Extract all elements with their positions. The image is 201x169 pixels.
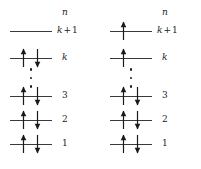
level-label-1: 1: [162, 139, 168, 148]
level-line: [110, 144, 152, 145]
level-line: [110, 120, 152, 121]
energy-level-figure: nk+1k321nk+1k321: [0, 0, 201, 169]
spin-arrow-up-icon: [20, 48, 27, 68]
level-label-number: 1: [62, 138, 68, 148]
ellipsis-dot: [130, 77, 133, 80]
spin-arrow-down-icon: [34, 86, 41, 106]
level-label-2: 2: [62, 115, 68, 124]
level-line: [110, 31, 152, 32]
level-label-number: 3: [62, 90, 68, 100]
quantum-number-header: n: [62, 8, 68, 17]
spin-arrow-down-icon: [134, 134, 141, 154]
level-label-number: 1: [172, 25, 178, 35]
level-label-k-plus-1: k+1: [57, 26, 78, 35]
spin-arrow-up-icon: [120, 110, 127, 130]
level-label-2: 2: [162, 115, 168, 124]
level-label-k-plus-1: k+1: [157, 26, 178, 35]
level-label-number: 2: [162, 114, 168, 124]
level-label-operator: +: [162, 25, 172, 35]
quantum-number-header: n: [162, 8, 168, 17]
level-line: [110, 96, 152, 97]
level-line: [10, 31, 52, 32]
spin-arrow-down-icon: [34, 48, 41, 68]
level-label-k: k: [62, 53, 67, 62]
level-line: [10, 58, 52, 59]
spin-arrow-down-icon: [134, 110, 141, 130]
level-label-1: 1: [62, 139, 68, 148]
level-label-operator: +: [62, 25, 72, 35]
spin-arrow-up-icon: [120, 48, 127, 68]
ellipsis-dot: [130, 85, 133, 88]
level-label-3: 3: [162, 91, 168, 100]
level-label-base: k: [162, 52, 167, 62]
ellipsis-dot: [30, 77, 33, 80]
ellipsis-dot: [30, 85, 33, 88]
level-label-number: 2: [62, 114, 68, 124]
level-line: [10, 120, 52, 121]
spin-arrow-up-icon: [120, 21, 127, 41]
vertical-ellipsis-icon: [26, 68, 36, 88]
spin-arrow-up-icon: [20, 86, 27, 106]
level-label-base: k: [62, 52, 67, 62]
level-line: [110, 58, 152, 59]
spin-arrow-down-icon: [34, 134, 41, 154]
level-line: [10, 96, 52, 97]
level-label-3: 3: [62, 91, 68, 100]
level-label-k: k: [162, 53, 167, 62]
spin-arrow-up-icon: [120, 86, 127, 106]
level-line: [10, 144, 52, 145]
energy-diagram-ground-state-configuration: nk+1k321: [0, 0, 100, 169]
level-label-number: 1: [72, 25, 78, 35]
ellipsis-dot: [130, 68, 133, 71]
spin-arrow-up-icon: [20, 110, 27, 130]
energy-diagram-excited-state-configuration: nk+1k321: [100, 0, 200, 169]
level-label-number: 1: [162, 138, 168, 148]
level-label-number: 3: [162, 90, 168, 100]
vertical-ellipsis-icon: [126, 68, 136, 88]
spin-arrow-down-icon: [134, 86, 141, 106]
spin-arrow-up-icon: [120, 134, 127, 154]
spin-arrow-down-icon: [34, 110, 41, 130]
spin-arrow-up-icon: [20, 134, 27, 154]
ellipsis-dot: [30, 68, 33, 71]
